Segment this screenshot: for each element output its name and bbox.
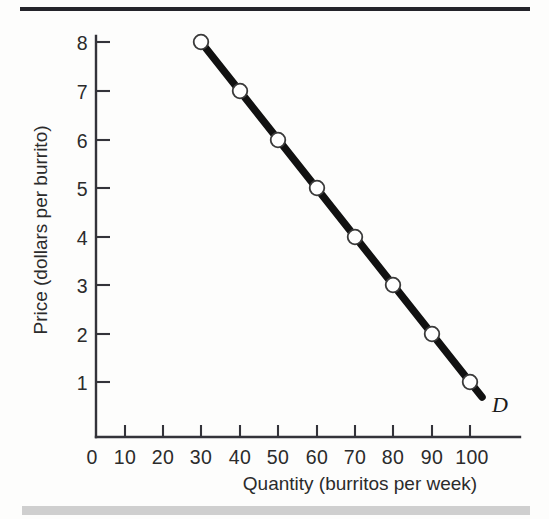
y-tick-label: 5 xyxy=(77,178,88,200)
x-tick-label: 50 xyxy=(267,446,289,468)
axis-group xyxy=(96,36,520,437)
x-tick-label-origin: 0 xyxy=(86,446,97,468)
x-tick-label: 30 xyxy=(190,446,212,468)
x-tick-label: 100 xyxy=(455,446,488,468)
x-tick-label: 10 xyxy=(114,446,136,468)
data-point xyxy=(425,327,440,342)
y-tick-label: 4 xyxy=(77,227,88,249)
data-point xyxy=(310,181,325,196)
demand-curve-figure: 8 7 6 5 4 3 2 1 0 10 20 30 40 50 60 70 8… xyxy=(0,0,549,519)
y-tick-label: 1 xyxy=(77,372,88,394)
chart-canvas: 8 7 6 5 4 3 2 1 0 10 20 30 40 50 60 70 8… xyxy=(0,0,549,519)
x-tick-label: 80 xyxy=(382,446,404,468)
y-tick-labels: 8 7 6 5 4 3 2 1 xyxy=(77,32,88,394)
data-point xyxy=(233,84,248,99)
x-tick-label: 40 xyxy=(229,446,251,468)
x-tick-label: 60 xyxy=(306,446,328,468)
x-tick-label: 20 xyxy=(152,446,174,468)
y-tick-label: 2 xyxy=(77,324,88,346)
y-tick-label: 3 xyxy=(77,275,88,297)
y-tick-label: 6 xyxy=(77,130,88,152)
y-tick-label: 8 xyxy=(77,32,88,54)
x-tick-marks xyxy=(125,425,470,437)
x-tick-label: 70 xyxy=(344,446,366,468)
y-tick-marks xyxy=(96,42,110,382)
x-tick-label: 90 xyxy=(421,446,443,468)
data-point xyxy=(463,375,478,390)
bottom-divider-bar xyxy=(22,506,530,515)
data-point xyxy=(271,133,286,148)
y-tick-label: 7 xyxy=(77,81,88,103)
data-point xyxy=(194,35,209,50)
data-point xyxy=(348,230,363,245)
demand-curve-label: D xyxy=(491,392,508,417)
y-axis-title: Price (dollars per burrito) xyxy=(30,125,51,334)
data-point xyxy=(386,278,401,293)
x-tick-labels: 0 10 20 30 40 50 60 70 80 90 100 xyxy=(86,446,488,468)
x-axis-title: Quantity (burritos per week) xyxy=(243,473,477,494)
